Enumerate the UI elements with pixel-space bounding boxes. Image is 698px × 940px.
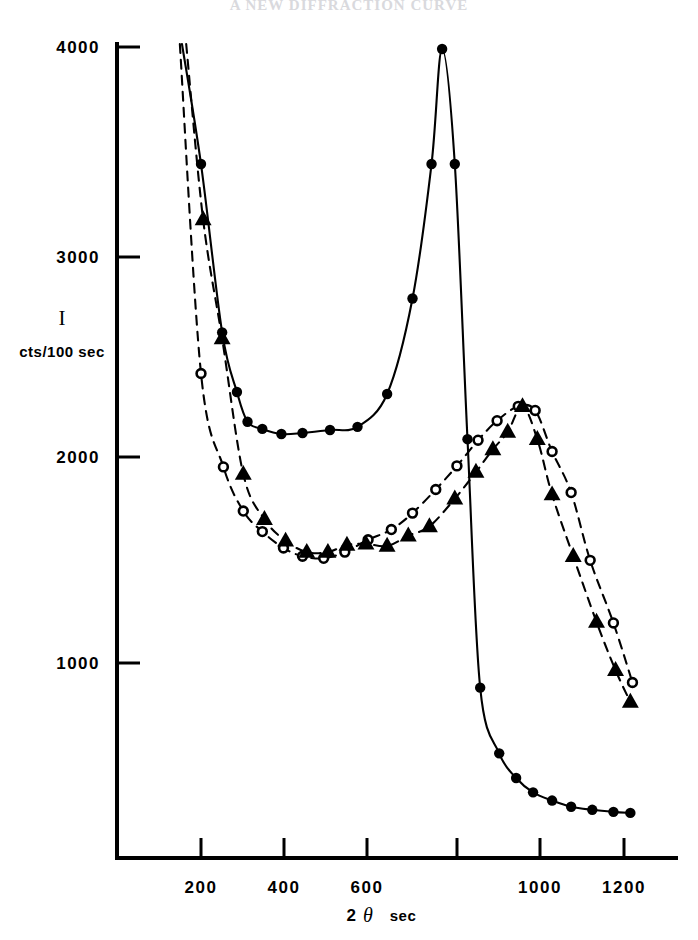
- x-axis-ticks: [201, 838, 624, 858]
- series-filled-triangle-curve: [186, 44, 639, 708]
- data-point-filled-circle: [608, 807, 618, 817]
- data-point-open-circle: [239, 507, 248, 516]
- data-point-open-circle: [408, 509, 417, 518]
- y-tick-label-1000: 1000: [56, 654, 100, 673]
- data-point-open-circle: [219, 463, 228, 472]
- y-axis-unit-label: cts/100 sec: [19, 343, 105, 360]
- rocking-curve-chart: 4000 3000 2000 1000 I cts/100 sec 200 40…: [0, 0, 698, 940]
- data-point-filled-circle: [352, 422, 362, 432]
- data-point-open-circle: [628, 678, 637, 687]
- data-point-filled-triangle: [400, 526, 417, 541]
- data-point-open-circle: [258, 527, 267, 536]
- data-point-open-circle: [197, 369, 206, 378]
- data-point-open-circle: [609, 619, 618, 628]
- data-point-open-circle: [531, 406, 540, 415]
- data-point-filled-circle: [242, 417, 252, 427]
- data-point-filled-triangle: [195, 210, 212, 225]
- data-point-filled-triangle: [421, 517, 438, 532]
- data-point-filled-circle: [437, 44, 447, 54]
- data-point-filled-circle: [494, 748, 504, 758]
- data-point-filled-triangle: [622, 693, 639, 708]
- series-open-circle-curve: [180, 44, 637, 687]
- figure-container: A NEW DIFFRACTION CURVE 4000 3000 2000 1…: [0, 0, 698, 940]
- data-point-filled-triangle: [467, 463, 484, 478]
- data-point-filled-circle: [276, 429, 286, 439]
- data-point-filled-triangle: [529, 430, 546, 445]
- data-point-filled-triangle: [214, 329, 231, 344]
- curve-line-open-circle: [180, 44, 633, 683]
- y-tick-label-3000: 3000: [56, 248, 100, 267]
- x-axis-theta-symbol: θ: [363, 904, 373, 926]
- curve-line-filled-circle: [182, 44, 630, 813]
- data-point-filled-triangle: [235, 465, 252, 480]
- data-point-filled-circle: [528, 787, 538, 797]
- data-point-open-circle: [431, 485, 440, 494]
- data-point-open-circle: [548, 447, 557, 456]
- data-point-filled-triangle: [588, 613, 605, 628]
- data-point-filled-circle: [407, 293, 417, 303]
- data-point-filled-triangle: [446, 490, 463, 505]
- data-point-filled-circle: [450, 159, 460, 169]
- data-point-filled-triangle: [565, 547, 582, 562]
- data-point-filled-circle: [511, 773, 521, 783]
- x-axis-unit-label: sec: [390, 907, 417, 924]
- data-series-layer: [180, 44, 639, 818]
- x-tick-label-200: 200: [185, 878, 218, 897]
- data-point-filled-circle: [325, 425, 335, 435]
- y-axis-ticks: [117, 47, 140, 663]
- data-point-filled-circle: [587, 805, 597, 815]
- x-tick-label-400: 400: [268, 878, 301, 897]
- data-point-filled-circle: [547, 795, 557, 805]
- data-point-open-circle: [453, 461, 462, 470]
- data-point-filled-triangle: [499, 423, 516, 438]
- data-point-filled-triangle: [277, 532, 294, 547]
- data-point-open-circle: [586, 556, 595, 565]
- series-filled-circle-curve: [182, 44, 636, 818]
- data-point-filled-triangle: [607, 661, 624, 676]
- curve-line-filled-triangle: [186, 44, 630, 702]
- data-point-filled-circle: [475, 682, 485, 692]
- x-tick-label-1000: 1000: [518, 878, 562, 897]
- data-point-filled-circle: [462, 434, 472, 444]
- data-point-filled-circle: [382, 389, 392, 399]
- x-axis-number: 2: [347, 906, 358, 925]
- data-point-open-circle: [387, 525, 396, 534]
- y-axis-symbol: I: [59, 306, 66, 330]
- data-point-filled-triangle: [256, 510, 273, 525]
- x-tick-label-1200: 1200: [602, 878, 646, 897]
- y-tick-label-4000: 4000: [56, 38, 100, 57]
- x-tick-label-600: 600: [351, 878, 384, 897]
- data-point-filled-circle: [257, 424, 267, 434]
- data-point-filled-circle: [426, 159, 436, 169]
- data-point-filled-circle: [566, 802, 576, 812]
- data-point-filled-circle: [232, 387, 242, 397]
- data-point-filled-triangle: [338, 536, 355, 551]
- cut-off-page-header: A NEW DIFFRACTION CURVE: [0, 0, 698, 12]
- data-point-filled-circle: [625, 808, 635, 818]
- data-point-open-circle: [474, 436, 483, 445]
- y-tick-label-2000: 2000: [56, 448, 100, 467]
- data-point-filled-triangle: [544, 485, 561, 500]
- data-point-open-circle: [493, 416, 502, 425]
- data-point-filled-circle: [297, 428, 307, 438]
- data-point-open-circle: [567, 488, 576, 497]
